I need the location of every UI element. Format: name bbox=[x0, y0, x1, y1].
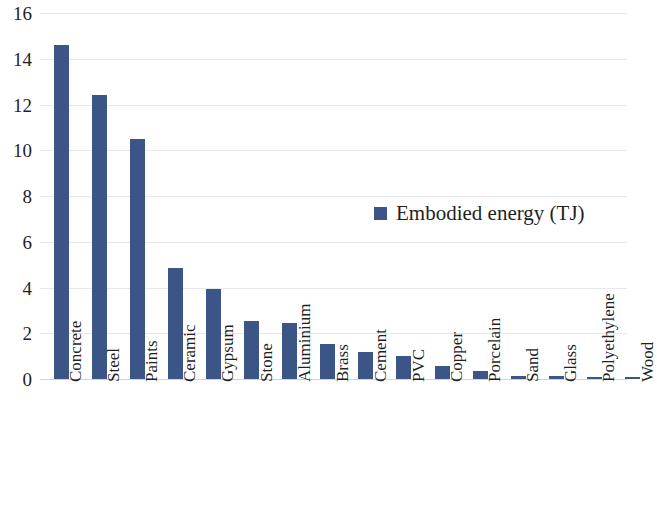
y-tick-label-16: 16 bbox=[0, 4, 32, 23]
gridline-4 bbox=[40, 288, 627, 289]
gridline-6 bbox=[40, 242, 627, 243]
y-tick-label-8: 8 bbox=[0, 187, 32, 206]
plot-area bbox=[40, 13, 627, 379]
y-tick-label-2: 2 bbox=[0, 324, 32, 343]
y-tick-label-4: 4 bbox=[0, 278, 32, 297]
gridline-2 bbox=[40, 333, 627, 334]
y-tick-label-0: 0 bbox=[0, 370, 32, 389]
gridline-10 bbox=[40, 150, 627, 151]
legend-label: Embodied energy (TJ) bbox=[396, 203, 585, 224]
gridline-12 bbox=[40, 105, 627, 106]
y-tick-label-6: 6 bbox=[0, 232, 32, 251]
gridline-8 bbox=[40, 196, 627, 197]
y-tick-label-10: 10 bbox=[0, 141, 32, 160]
y-axis: 0246810121416 bbox=[0, 13, 32, 379]
chart-legend: Embodied energy (TJ) bbox=[374, 203, 585, 224]
x-axis: ConcreteSteelPaintsCeramicGypsumStoneAlu… bbox=[40, 382, 627, 506]
gridline-14 bbox=[40, 59, 627, 60]
bar-steel[interactable] bbox=[92, 95, 107, 379]
gridline-16 bbox=[40, 13, 627, 14]
y-tick-label-14: 14 bbox=[0, 49, 32, 68]
y-tick-label-12: 12 bbox=[0, 95, 32, 114]
legend-square-marker bbox=[374, 207, 387, 220]
